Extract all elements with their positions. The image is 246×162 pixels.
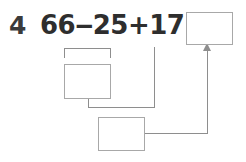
final-answer-box[interactable] — [186, 12, 233, 45]
step2-connector-horizontal — [145, 133, 208, 134]
grouping-bracket-top — [64, 48, 111, 49]
step2-connector-vertical — [207, 50, 208, 134]
grouping-bracket-right-tick — [110, 48, 111, 58]
arithmetic-expression: 66‒25+17= — [40, 12, 206, 38]
question-number: 4 — [9, 13, 26, 38]
step-1-answer-box[interactable] — [64, 64, 111, 99]
step-2-answer-box[interactable] — [98, 117, 145, 151]
term-17-drop-line — [154, 47, 155, 108]
math-worksheet-problem: 4 66‒25+17= — [0, 0, 246, 162]
grouping-bracket-left-tick — [64, 48, 65, 58]
step1-connector-horizontal — [88, 107, 155, 108]
